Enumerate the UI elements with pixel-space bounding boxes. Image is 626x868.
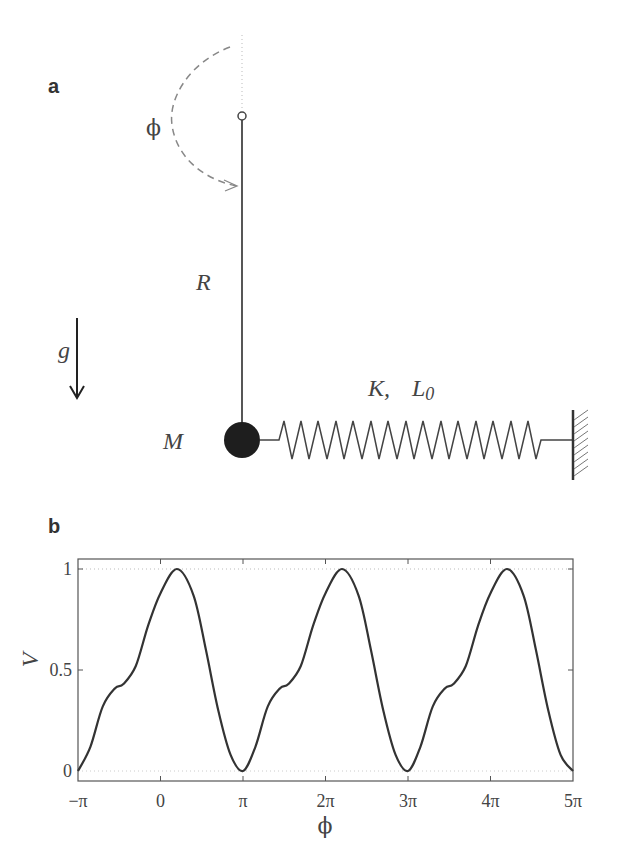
rod-label: R [195, 269, 211, 295]
x-tick-label: 2π [316, 791, 334, 811]
y-ticks [78, 569, 573, 670]
x-tick-label: 3π [399, 791, 417, 811]
x-tick-label: π [238, 791, 247, 811]
angle-arc [172, 47, 236, 186]
x-tick-label: 5π [564, 791, 582, 811]
y-axis-label: V [17, 650, 43, 667]
y-tick-label: 0.5 [50, 660, 73, 680]
gravity-label: g [58, 337, 70, 363]
mass [224, 422, 260, 458]
pivot [238, 112, 246, 120]
mass-label: M [162, 428, 185, 454]
x-tick-label: 4π [481, 791, 499, 811]
panel-a-label: a [48, 75, 60, 97]
spring-constant-label: K, [367, 375, 390, 401]
angle-label: ϕ [146, 115, 161, 140]
panel-b-label: b [48, 515, 60, 537]
spring [260, 421, 573, 459]
angle-arrow-icon [224, 180, 237, 191]
wall-hatching [574, 410, 588, 476]
y-tick-label: 1 [63, 559, 72, 579]
x-axis-label: ϕ [318, 813, 333, 838]
plot: −π 0 π 2π 3π 4π 5π 0 0.5 1 ϕ V [17, 559, 582, 838]
x-tick-label: 0 [156, 791, 165, 811]
rest-length-label: L0 [411, 375, 434, 404]
x-tick-label: −π [68, 791, 87, 811]
figure: a ϕ R g M K, L0 b [0, 0, 626, 868]
potential-curve [78, 569, 573, 771]
y-tick-label: 0 [63, 761, 72, 781]
